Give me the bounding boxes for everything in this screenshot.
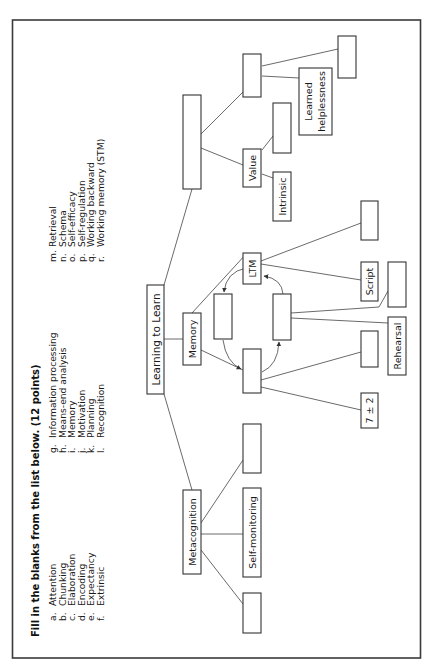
word-bank-letter: f. bbox=[95, 616, 106, 622]
node-label: Self-monitoring bbox=[247, 496, 258, 569]
word-bank-term: Working memory (STM) bbox=[95, 139, 106, 247]
blank-box-cycle-bottom[interactable] bbox=[243, 349, 261, 393]
node-memory: Memory bbox=[183, 313, 201, 365]
node-script: Script bbox=[361, 262, 378, 301]
node-label: Value bbox=[247, 155, 258, 181]
blank-box-expectancy[interactable] bbox=[243, 54, 261, 97]
node-label: Script bbox=[364, 267, 375, 295]
node-learning-to-learn: Learning to Learn bbox=[147, 285, 164, 394]
node-label: Memory bbox=[187, 319, 198, 358]
blank-box-ltm-branch[interactable] bbox=[361, 201, 378, 240]
concept-map-canvas: Fill in the blanks from the list below. … bbox=[0, 0, 435, 669]
word-bank-letter: r. bbox=[95, 256, 106, 262]
node-label-line-1: Learned bbox=[303, 82, 314, 120]
node-ltm: LTM bbox=[243, 253, 261, 284]
blank-box-cycle-left[interactable] bbox=[214, 294, 232, 339]
word-bank-term: Extrinsic bbox=[95, 567, 106, 606]
arrow-encoding-to-ltm bbox=[264, 276, 283, 294]
blank-box-wm-branch[interactable] bbox=[361, 331, 378, 367]
blank-box-value-type[interactable] bbox=[273, 103, 291, 153]
instructions-title: Fill in the blanks from the list below. … bbox=[30, 364, 41, 637]
blank-box-self-efficacy[interactable] bbox=[338, 36, 356, 78]
arrow-wm-to-encoding bbox=[262, 342, 279, 372]
node-label: LTM bbox=[247, 260, 258, 278]
node-label: Rehearsal bbox=[392, 322, 403, 369]
node-seven-plus-minus-two: 7 ± 2 bbox=[361, 393, 378, 428]
node-value: Value bbox=[243, 149, 261, 187]
node-label: Metacognition bbox=[187, 498, 198, 566]
word-bank-letter: l. bbox=[95, 448, 106, 453]
node-intrinsic: Intrinsic bbox=[273, 172, 291, 221]
node-metacognition: Metacognition bbox=[183, 490, 201, 574]
node-rehearsal: Rehearsal bbox=[388, 317, 406, 375]
node-self-monitoring: Self-monitoring bbox=[243, 488, 261, 577]
worksheet-page: Fill in the blanks from the list below. … bbox=[0, 0, 435, 669]
node-label: Intrinsic bbox=[277, 178, 288, 216]
blank-box-motivation[interactable] bbox=[183, 95, 201, 189]
word-bank-term: Recognition bbox=[95, 384, 106, 438]
blank-box-metacognition-upper[interactable] bbox=[243, 424, 261, 473]
blank-box-metacognition-lower[interactable] bbox=[243, 593, 261, 633]
blank-box-encoding-strategy[interactable] bbox=[388, 262, 406, 307]
word-bank-column-3: m. Retrieval n. Schema o. Self-efficacy … bbox=[47, 139, 106, 262]
word-bank-column-2: g. Information processing h. Means-end a… bbox=[47, 332, 106, 454]
node-label: Learning to Learn bbox=[150, 293, 162, 385]
word-bank-column-1: a. Attention b. Chunking c. Elaboration … bbox=[47, 552, 106, 621]
node-label: 7 ± 2 bbox=[364, 397, 375, 423]
node-label-line-2: helplessness bbox=[316, 71, 327, 132]
blank-box-cycle-right[interactable] bbox=[273, 294, 291, 340]
node-learned-helplessness: Learned helplessness bbox=[299, 68, 332, 135]
